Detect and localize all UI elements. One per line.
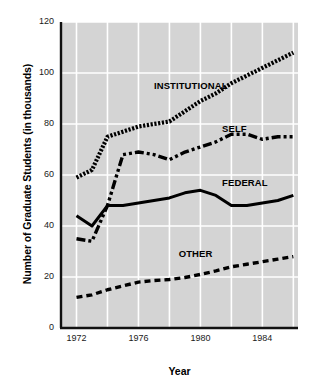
series-label-other: OTHER <box>179 248 213 259</box>
series-label-institutional: INSTITUTIONAL <box>154 80 228 91</box>
graduate-students-line-chart: Number of Graduate Students (in thousand… <box>0 0 317 391</box>
series-label-federal: FEDERAL <box>222 177 268 188</box>
plot-area <box>0 0 317 391</box>
series-label-self: SELF <box>222 123 247 134</box>
